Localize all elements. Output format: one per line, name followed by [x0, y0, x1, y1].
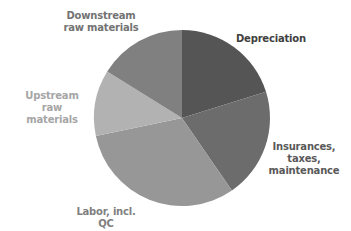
label-upstream-raw-materials: Upstream raw materials [14, 90, 90, 126]
pie-slices [94, 30, 270, 206]
label-insurances-taxes-maintenance: Insurances, taxes, maintenance [268, 141, 340, 177]
label-downstream-raw-materials: Downstream raw materials [62, 10, 140, 34]
label-labor: Labor, incl. QC [70, 206, 142, 230]
label-depreciation: Depreciation [236, 33, 298, 45]
